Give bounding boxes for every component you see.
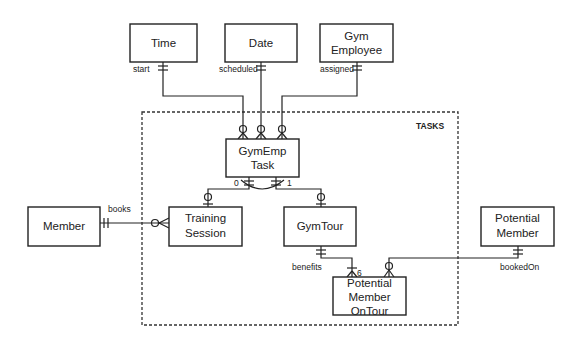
entity-date-label: Date xyxy=(249,37,273,49)
entity-pm-on-tour-label-2: Member xyxy=(348,291,390,303)
entity-pm-on-tour-label-3: OnTour xyxy=(351,305,389,317)
tasks-group-label: TASKS xyxy=(416,121,445,131)
relationship-bookedon-line xyxy=(389,246,518,277)
label-start: start xyxy=(133,64,150,74)
label-bookedon: bookedOn xyxy=(500,262,539,272)
entity-potential-member-label-2: Member xyxy=(496,227,538,239)
entity-gymemp-task[interactable]: GymEmp Task xyxy=(226,139,299,177)
entity-training-session[interactable]: Training Session xyxy=(169,207,242,246)
entity-member[interactable]: Member xyxy=(28,207,100,246)
label-benefits: benefits xyxy=(292,262,322,272)
entity-gymemp-task-label-1: GymEmp xyxy=(239,145,287,157)
er-diagram: TASKS xyxy=(0,0,585,347)
entity-pm-on-tour-label-1: Potential xyxy=(347,277,392,289)
entity-gym-employee[interactable]: Gym Employee xyxy=(320,24,393,62)
relationship-benefits-line xyxy=(321,246,352,277)
label-assigned: assigned xyxy=(320,64,354,74)
entity-gym-tour-label: GymTour xyxy=(297,220,344,232)
entity-training-session-label-2: Session xyxy=(185,227,226,239)
label-exclusive-1: 1 xyxy=(287,178,292,188)
entity-gym-tour[interactable]: GymTour xyxy=(284,207,356,246)
entity-potential-member[interactable]: Potential Member xyxy=(481,207,554,246)
label-exclusive-0: 0 xyxy=(234,178,239,188)
label-books: books xyxy=(108,204,131,214)
entity-gymemp-task-label-2: Task xyxy=(251,159,275,171)
entity-potential-member-label-1: Potential xyxy=(495,212,540,224)
entity-date[interactable]: Date xyxy=(225,24,297,62)
entity-training-session-label-1: Training xyxy=(185,212,226,224)
label-scheduled: scheduled xyxy=(219,64,258,74)
entity-potential-member-on-tour[interactable]: Potential Member OnTour xyxy=(333,277,406,317)
entity-gym-employee-label-2: Employee xyxy=(331,44,382,56)
entity-time[interactable]: Time xyxy=(130,24,197,62)
entity-time-label: Time xyxy=(151,37,176,49)
entity-member-label: Member xyxy=(43,220,85,232)
entity-gym-employee-label-1: Gym xyxy=(344,30,368,42)
